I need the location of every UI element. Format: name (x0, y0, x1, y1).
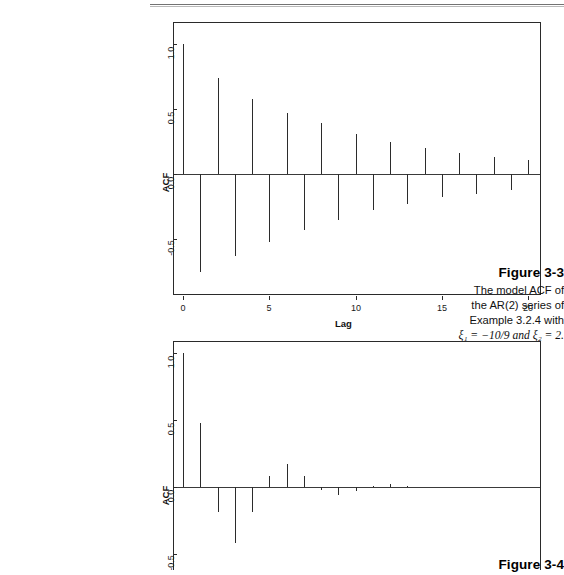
caption-line-1: The model ACF of (394, 283, 564, 298)
figure-3-4-plot: -0.50.00.51.0 ACF (0, 330, 564, 570)
zero-line-2 (174, 487, 540, 488)
x-tick-label: 5 (259, 303, 279, 313)
acf-stem (373, 174, 374, 210)
acf-stem (252, 99, 253, 174)
x-axis-title-1: Lag (335, 318, 352, 329)
y-tick-label: 0.5 (166, 419, 176, 439)
figure-3-3-label: Figure 3-3 (394, 264, 564, 282)
zero-line-1 (174, 174, 540, 175)
acf-stem (269, 174, 270, 242)
y-axis-title-1: ACF (160, 163, 171, 203)
plot-frame-1 (173, 22, 541, 295)
acf-stem (218, 487, 219, 512)
acf-stem (183, 353, 184, 487)
acf-stem (338, 487, 339, 495)
acf-stem (287, 113, 288, 174)
acf-stem (442, 174, 443, 197)
caption-line-2: the AR(2) series of (394, 298, 564, 313)
acf-stem (459, 153, 460, 174)
acf-stem (338, 174, 339, 220)
acf-stem (528, 160, 529, 174)
y-axis-title-2: ACF (160, 476, 171, 516)
acf-stem (269, 476, 270, 487)
acf-stem (373, 486, 374, 487)
acf-stem (321, 487, 322, 490)
acf-stem (511, 174, 512, 190)
acf-stem (218, 78, 219, 174)
acf-stem (356, 487, 357, 491)
acf-stem (425, 148, 426, 174)
acf-stem (183, 44, 184, 174)
y-tick-label: 1.0 (166, 352, 176, 372)
acf-stem (304, 174, 305, 230)
acf-stem (390, 484, 391, 487)
figure-3-4-caption: Figure 3-4 (394, 556, 564, 575)
y-tick-label: -0.5 (166, 553, 176, 570)
acf-stem (200, 174, 201, 272)
figure-3-4-label: Figure 3-4 (394, 556, 564, 574)
acf-stem (476, 174, 477, 194)
x-tick (269, 296, 270, 300)
acf-stem (304, 476, 305, 487)
acf-stem (407, 486, 408, 487)
acf-stem (200, 423, 201, 487)
caption-line-3: Example 3.2.4 with (394, 313, 564, 328)
acf-stem (321, 123, 322, 174)
acf-stem (235, 174, 236, 256)
acf-stem (494, 157, 495, 174)
x-tick (356, 296, 357, 300)
acf-stem (287, 464, 288, 487)
x-tick (183, 296, 184, 300)
plot-frame-2 (173, 341, 541, 570)
acf-stem (390, 142, 391, 175)
y-tick-label: 1.0 (166, 43, 176, 63)
acf-stem (235, 487, 236, 543)
x-tick-label: 0 (173, 303, 193, 313)
x-tick-label: 10 (346, 303, 366, 313)
acf-stem (252, 487, 253, 512)
y-tick-label: 0.5 (166, 108, 176, 128)
acf-stem (407, 174, 408, 204)
acf-stem (356, 134, 357, 174)
y-tick-label: -0.5 (166, 238, 176, 258)
